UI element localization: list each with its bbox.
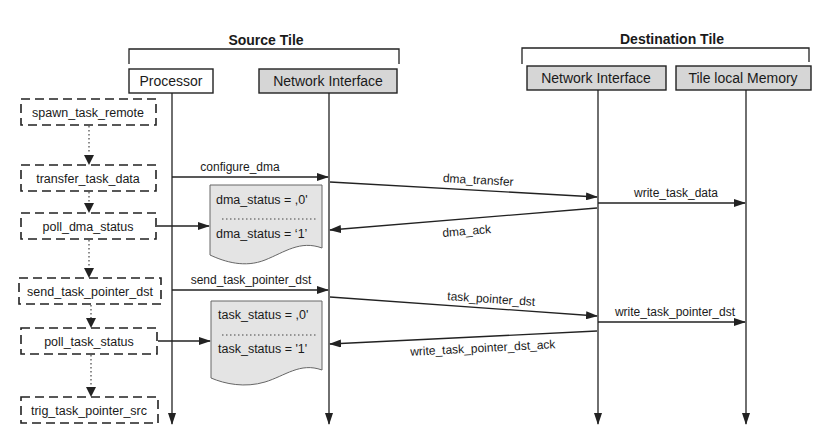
participant-label-memory: Tile local Memory xyxy=(688,70,797,86)
step-label: poll_task_status xyxy=(44,335,134,349)
participant-destination-network-interface: Network Interface xyxy=(527,66,666,90)
message-label: write_task_data xyxy=(633,186,718,200)
message-task-pointer-dst: task_pointer_dst xyxy=(330,289,597,316)
message-label: send_task_pointer_dst xyxy=(191,273,312,287)
flow-arrowhead-2 xyxy=(84,203,94,213)
participant-label-source-ni: Network Interface xyxy=(273,73,383,89)
message-write-task-pointer-dst-ack: write_task_pointer_dst_ack xyxy=(330,331,597,359)
group-source-tile: Source Tile xyxy=(129,32,399,64)
step-poll-dma-status: poll_dma_status xyxy=(21,213,156,239)
flow-arrowhead-1 xyxy=(84,155,94,165)
note-line-1: dma_status = ,0' xyxy=(216,193,308,207)
bracket-destination-tile xyxy=(522,48,809,64)
step-spawn-task-remote: spawn_task_remote xyxy=(21,99,156,125)
message-write-task-pointer-dst: write_task_pointer_dst xyxy=(598,305,745,322)
step-label: spawn_task_remote xyxy=(32,106,144,120)
message-dma-ack: dma_ack xyxy=(330,208,597,240)
message-label: dma_transfer xyxy=(443,171,514,189)
step-label: poll_dma_status xyxy=(42,220,133,234)
message-label: write_task_pointer_dst xyxy=(614,305,736,319)
group-destination-tile: Destination Tile xyxy=(522,31,809,64)
flow-arrowhead-5 xyxy=(86,387,96,397)
step-label: transfer_task_data xyxy=(36,172,140,186)
flow-arrowhead-3 xyxy=(84,268,94,278)
participant-label-processor: Processor xyxy=(139,73,202,89)
step-label: send_task_pointer_dst xyxy=(27,285,153,299)
note-line-2: task_status = '1' xyxy=(218,342,307,356)
group-title-destination-tile: Destination Tile xyxy=(620,31,724,47)
step-transfer-task-data: transfer_task_data xyxy=(21,165,156,191)
participant-source-network-interface: Network Interface xyxy=(259,69,397,93)
step-label: trig_task_pointer_src xyxy=(31,404,147,418)
message-configure-dma: configure_dma xyxy=(172,160,328,177)
note-task-status: task_status = ,0' task_status = '1' xyxy=(211,301,322,385)
bracket-source-tile xyxy=(129,49,399,64)
group-title-source-tile: Source Tile xyxy=(228,32,303,48)
step-send-task-pointer-dst: send_task_pointer_dst xyxy=(19,278,161,304)
note-line-2: dma_status = ‘1’ xyxy=(216,227,307,241)
step-trig-task-pointer-src: trig_task_pointer_src xyxy=(21,397,158,423)
message-label: dma_ack xyxy=(442,222,493,240)
note-dma-status: dma_status = ,0' dma_status = ‘1’ xyxy=(210,185,322,264)
message-send-task-pointer-dst: send_task_pointer_dst xyxy=(172,273,328,290)
participant-processor: Processor xyxy=(129,69,213,93)
flow-arrowhead-4 xyxy=(86,318,96,328)
message-write-task-data: write_task_data xyxy=(598,186,745,203)
message-label: configure_dma xyxy=(200,160,280,174)
note-line-1: task_status = ,0' xyxy=(218,308,308,322)
message-dma-transfer: dma_transfer xyxy=(330,171,597,197)
participant-tile-local-memory: Tile local Memory xyxy=(676,66,811,90)
sequence-diagram: Source Tile Destination Tile Processor N… xyxy=(0,0,830,446)
step-poll-task-status: poll_task_status xyxy=(21,328,157,354)
message-label: write_task_pointer_dst_ack xyxy=(409,337,557,359)
participant-label-destination-ni: Network Interface xyxy=(541,70,651,86)
